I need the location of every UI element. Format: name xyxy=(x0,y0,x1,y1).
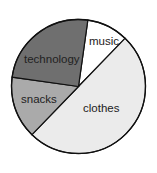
label-clothes: clothes xyxy=(83,102,120,114)
pie-slices xyxy=(12,20,146,154)
pie-chart: music technology snacks clothes xyxy=(0,0,157,173)
label-technology: technology xyxy=(24,53,80,65)
label-music: music xyxy=(89,35,119,47)
label-snacks: snacks xyxy=(21,93,57,105)
